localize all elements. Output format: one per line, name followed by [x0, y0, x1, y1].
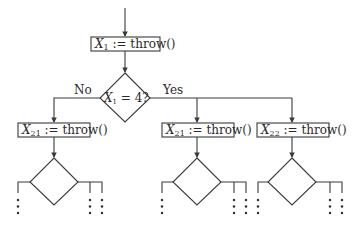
dots-col: [245, 199, 247, 214]
dots-col: [341, 199, 343, 214]
decision-node-3: [258, 158, 342, 205]
dots-col: [257, 199, 259, 214]
edge-label-yes: Yes: [162, 83, 183, 97]
dots-col: [233, 199, 235, 214]
dots-col: [161, 199, 163, 214]
dots-col: [89, 199, 91, 214]
no-branch-line: [54, 98, 100, 122]
dots-col: [101, 199, 103, 214]
edge-label-no: No: [74, 83, 92, 97]
decision-node-2: [162, 158, 246, 205]
assign-x21-no-node: X21 := throw(): [18, 123, 108, 138]
dots-col: [329, 199, 331, 214]
flowchart-canvas: X1 := throw() X1 = 4? No Yes X21 := thro…: [0, 0, 356, 225]
dots-col: [17, 199, 19, 214]
assign-x1-node: X1 := throw(): [91, 37, 176, 52]
decision-node-1: [18, 158, 102, 205]
decision-x1-node: X1 = 4?: [100, 73, 150, 122]
svg-text:X1 = 4?: X1 = 4?: [103, 91, 149, 106]
assign-x22-yes-node: X22 := throw(): [257, 123, 347, 138]
assign-x21-yes-node: X21 := throw(): [162, 123, 252, 138]
